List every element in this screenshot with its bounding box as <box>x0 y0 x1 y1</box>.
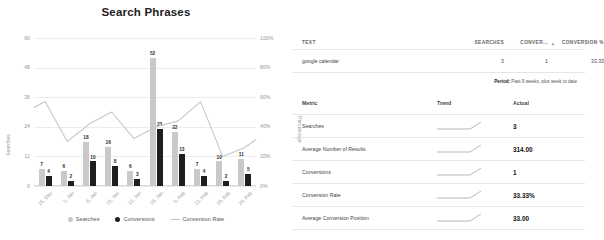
x-axis-tick: 1, Jan <box>53 190 76 213</box>
legend-label: Conversion Rate <box>183 216 225 222</box>
y-axis-tick-left: 0 <box>8 184 30 189</box>
gridline <box>34 186 256 187</box>
search-phrases-table: TEXT SEARCHES CONVER... ▴ CONVERSION % g… <box>292 28 585 73</box>
cell-conversions: 1 <box>504 58 548 64</box>
cell-trend-sparkline <box>437 214 507 222</box>
y-axis-tick-right: 80% <box>260 65 286 70</box>
phrases-table-header: TEXT SEARCHES CONVER... ▴ CONVERSION % <box>292 28 585 50</box>
y-axis-label-left: Searches <box>5 134 11 156</box>
sparkline-icon <box>437 191 483 199</box>
cell-trend-sparkline <box>437 168 507 176</box>
legend-dot-icon <box>68 217 73 222</box>
conversion-rate-line <box>34 38 256 186</box>
sparkline-icon <box>437 145 483 153</box>
search-phrases-chart-panel: Search Phrases 00%1220%2440%3660%4880%60… <box>0 0 292 240</box>
cell-phrase-text: google calendar <box>302 58 452 64</box>
cell-actual-value: 1 <box>513 169 517 176</box>
x-axis-tick: 8, Jan <box>75 190 98 213</box>
cell-metric-name: Average Number of Results <box>302 146 437 152</box>
cell-actual-wrap: 1 <box>507 169 579 176</box>
y-axis-tick-right: 100% <box>260 36 286 41</box>
period-caption: Period: Past 9 weeks, plus week to date <box>292 79 577 84</box>
metrics-table: Metric Trend Actual Searches3Average Num… <box>292 92 585 230</box>
y-axis-tick-right: 20% <box>260 154 286 159</box>
x-axis-tick: 26, Feb <box>231 190 254 213</box>
col-header-trend[interactable]: Trend <box>437 100 507 106</box>
metrics-row[interactable]: Conversion Rate33.33% <box>292 184 585 207</box>
metrics-row[interactable]: Searches3 <box>292 115 585 138</box>
cell-actual-wrap: 33.33% <box>507 192 579 199</box>
x-axis-tick: 12, Feb <box>186 190 209 213</box>
cell-actual-wrap: 3 <box>507 123 579 130</box>
cell-trend-sparkline <box>437 122 507 130</box>
x-axis-tick: 5, Feb <box>164 190 187 213</box>
chart-title: Search Phrases <box>0 6 292 18</box>
y-axis-tick-right: 60% <box>260 95 286 100</box>
cell-metric-name: Conversions <box>302 169 437 175</box>
col-header-searches[interactable]: SEARCHES <box>452 40 504 46</box>
cell-searches: 3 <box>452 58 504 64</box>
legend-item[interactable]: Conversions <box>115 216 154 222</box>
y-axis-tick-left: 60 <box>8 36 30 41</box>
col-header-actual[interactable]: Actual <box>507 100 579 106</box>
sparkline-icon <box>437 122 483 130</box>
cell-actual-wrap: 314.00 <box>507 146 579 153</box>
x-axis-tick: 22, Jan <box>120 190 143 213</box>
y-axis-tick-left: 24 <box>8 124 30 129</box>
y-axis-tick-right: 40% <box>260 124 286 129</box>
table-row[interactable]: google calendar 3 1 33.33 <box>292 50 585 73</box>
tables-panel: TEXT SEARCHES CONVER... ▴ CONVERSION % g… <box>292 0 585 240</box>
period-label: Period: <box>494 79 510 84</box>
x-axis-tick: 19, Feb <box>208 190 231 213</box>
cell-actual-wrap: 33.00 <box>507 215 579 222</box>
cell-actual-value: 33.00 <box>513 215 529 222</box>
col-header-text[interactable]: TEXT <box>302 40 452 46</box>
x-axis-tick: 29, Jan <box>142 190 165 213</box>
cell-metric-name: Searches <box>302 123 437 129</box>
cell-metric-name: Average Conversion Position <box>302 215 437 221</box>
cell-actual-value: 3 <box>513 123 517 130</box>
chart-legend: SearchesConversionsConversion Rate <box>0 216 292 222</box>
cell-actual-value: 314.00 <box>513 146 533 153</box>
period-value: Past 9 weeks, plus week to date <box>510 79 577 84</box>
metrics-row[interactable]: Average Number of Results314.00 <box>292 138 585 161</box>
legend-item[interactable]: Conversion Rate <box>171 216 225 222</box>
legend-label: Conversions <box>123 216 154 222</box>
chart-plot-area: 00%1220%2440%3660%4880%60100% Searches P… <box>34 38 256 186</box>
y-axis-tick-left: 36 <box>8 95 30 100</box>
sort-ascending-icon[interactable]: ▴ <box>548 41 558 46</box>
legend-line-icon <box>171 219 180 220</box>
y-axis-tick-left: 48 <box>8 65 30 70</box>
cell-actual-value: 33.33% <box>513 192 535 199</box>
x-axis-tick: 15, Jan <box>97 190 120 213</box>
y-axis-tick-left: 12 <box>8 154 30 159</box>
col-header-conversions[interactable]: CONVER... <box>504 40 548 46</box>
cell-trend-sparkline <box>437 145 507 153</box>
legend-item[interactable]: Searches <box>68 216 100 222</box>
legend-label: Searches <box>76 216 100 222</box>
y-axis-tick-right: 0% <box>260 184 286 189</box>
metrics-table-header: Metric Trend Actual <box>292 92 585 115</box>
metrics-row[interactable]: Conversions1 <box>292 161 585 184</box>
cell-trend-sparkline <box>437 191 507 199</box>
col-header-conversion-percent[interactable]: CONVERSION % <box>558 40 604 46</box>
cell-conversion-percent: 33.33 <box>558 58 604 64</box>
legend-dot-icon <box>115 217 120 222</box>
cell-metric-name: Conversion Rate <box>302 192 437 198</box>
x-axis-tick: 25, Dec <box>31 190 54 213</box>
metrics-row[interactable]: Average Conversion Position33.00 <box>292 207 585 230</box>
sparkline-icon <box>437 168 483 176</box>
sparkline-icon <box>437 214 483 222</box>
col-header-metric[interactable]: Metric <box>302 100 437 106</box>
